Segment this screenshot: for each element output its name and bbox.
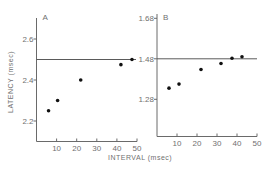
data-point — [56, 99, 60, 103]
panel-title: B — [163, 13, 168, 22]
y-axis-label: LATENCY (msec) — [7, 51, 15, 113]
y-tick-label: 1.68 — [138, 14, 154, 23]
x-axis-label: INTERVAL (msec) — [108, 154, 172, 162]
data-point — [167, 86, 171, 90]
data-point — [47, 109, 51, 113]
panel-title: A — [43, 13, 49, 22]
panel-b: 10203040501.281.481.68B — [138, 13, 262, 148]
y-tick-label: 2.4 — [22, 76, 34, 85]
data-point — [79, 78, 83, 82]
x-tick-label: 10 — [173, 139, 182, 148]
x-tick-label: 30 — [213, 139, 222, 148]
panel-a: 10203040502.22.42.6A — [22, 13, 142, 153]
figure: 10203040502.22.42.6A 10203040501.281.481… — [0, 0, 274, 172]
x-tick-label: 30 — [92, 144, 101, 153]
y-tick-label: 1.28 — [138, 95, 154, 104]
y-tick-label: 2.6 — [22, 35, 34, 44]
x-tick-label: 50 — [133, 144, 142, 153]
data-point — [130, 58, 134, 62]
data-point — [199, 68, 203, 72]
x-tick-label: 40 — [112, 144, 121, 153]
x-tick-label: 40 — [233, 139, 242, 148]
x-tick-label: 50 — [253, 139, 262, 148]
x-tick-label: 20 — [193, 139, 202, 148]
x-tick-label: 20 — [72, 144, 81, 153]
data-point — [240, 55, 244, 59]
data-point — [177, 82, 181, 86]
data-point — [230, 56, 234, 60]
y-tick-label: 2.2 — [22, 117, 34, 126]
x-tick-label: 10 — [52, 144, 61, 153]
data-point — [219, 62, 223, 66]
data-point — [119, 63, 123, 67]
y-tick-label: 1.48 — [138, 55, 154, 64]
